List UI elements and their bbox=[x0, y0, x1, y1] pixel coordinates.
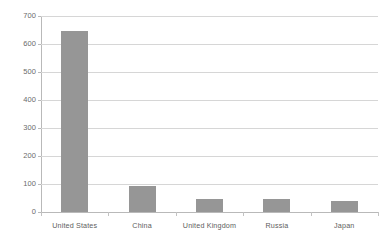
bar[interactable] bbox=[196, 199, 223, 212]
y-axis-tick-label: 300 bbox=[2, 124, 36, 132]
x-axis-category-label: Japan bbox=[311, 221, 378, 230]
bar[interactable] bbox=[263, 199, 290, 212]
y-axis-tick-label: 500 bbox=[2, 68, 36, 76]
y-axis-tick-label: 200 bbox=[2, 152, 36, 160]
x-axis-category-label: United States bbox=[41, 221, 108, 230]
x-axis-tick bbox=[176, 212, 177, 216]
x-axis-tick bbox=[243, 212, 244, 216]
y-axis-tick-label: 700 bbox=[2, 12, 36, 20]
y-axis-tick-label: 0 bbox=[2, 208, 36, 216]
x-axis-tick bbox=[378, 212, 379, 216]
x-axis-category-label: Russia bbox=[243, 221, 310, 230]
bar[interactable] bbox=[61, 31, 88, 212]
bar[interactable] bbox=[129, 186, 156, 212]
y-axis-tick-label: 400 bbox=[2, 96, 36, 104]
x-axis-tick bbox=[311, 212, 312, 216]
x-axis-category-label: United Kingdom bbox=[176, 221, 243, 230]
bar[interactable] bbox=[331, 201, 358, 212]
bars-group bbox=[41, 16, 378, 212]
x-axis-tick bbox=[41, 212, 42, 216]
x-axis-category-label: China bbox=[108, 221, 175, 230]
y-axis-tick-label: 100 bbox=[2, 180, 36, 188]
gridline bbox=[41, 212, 378, 213]
x-axis-tick bbox=[108, 212, 109, 216]
bar-chart: 0100200300400500600700 United StatesChin… bbox=[0, 0, 390, 247]
y-axis-tick-label: 600 bbox=[2, 40, 36, 48]
